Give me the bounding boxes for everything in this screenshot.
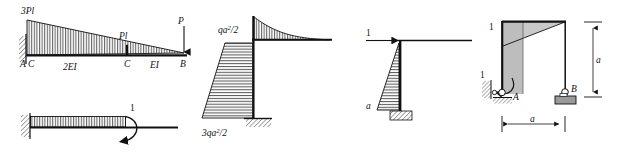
label-mid-moment: Pl bbox=[118, 31, 128, 41]
label-unit-moment: 1 bbox=[130, 103, 135, 113]
moment-diagram-constant bbox=[31, 117, 126, 128]
figure-portal-frame: 1 1 A B a a bbox=[455, 8, 625, 160]
label-node-c-right: C bbox=[124, 59, 131, 69]
label-unit-force: 1 bbox=[366, 28, 371, 38]
fixed-base-support bbox=[390, 111, 412, 120]
label-peak-moment: 3Pl bbox=[20, 6, 35, 16]
label-beam-moment: qa2/2 bbox=[218, 24, 238, 35]
label-stiffness-ei: EI bbox=[149, 60, 160, 70]
label-support-a: A bbox=[19, 59, 26, 69]
fixed-support bbox=[21, 113, 30, 139]
label-node-c-left: C bbox=[28, 59, 35, 69]
label-support-b: B bbox=[571, 84, 577, 94]
label-stiffness-2ei: 2EI bbox=[63, 62, 78, 72]
figure-cantilever-3pl: 3Pl Pl P A C 2EI C EI B bbox=[0, 0, 210, 100]
moment-diagram-triangle bbox=[377, 43, 399, 110]
label-dim-vertical: a bbox=[596, 55, 601, 65]
label-support-a: A bbox=[512, 92, 519, 102]
label-unit-load-top: 1 bbox=[489, 22, 494, 32]
column-moment-diagram bbox=[202, 43, 253, 118]
moment-diagram-area bbox=[27, 20, 184, 55]
label-height-a: a bbox=[366, 101, 371, 111]
label-load-p: P bbox=[177, 16, 184, 26]
moment-diagram-shaded bbox=[503, 22, 565, 94]
beam-moment-diagram bbox=[254, 17, 330, 40]
figure-sheet: 3Pl Pl P A C 2EI C EI B bbox=[0, 0, 625, 163]
fixed-base-support bbox=[244, 119, 272, 128]
label-dim-horizontal: a bbox=[530, 114, 535, 124]
figure-unit-force-column: 1 a bbox=[322, 14, 472, 163]
label-unit-moment-support: 1 bbox=[480, 70, 485, 80]
label-base-moment: 3qa2/2 bbox=[201, 127, 227, 138]
label-node-b: B bbox=[180, 59, 186, 69]
figure-unit-moment-cantilever: 1 bbox=[8, 98, 188, 163]
